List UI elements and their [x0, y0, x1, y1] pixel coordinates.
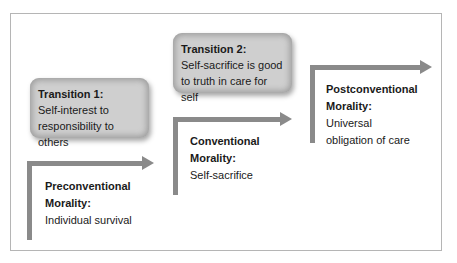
stage-desc: Individual survival [45, 212, 132, 229]
stage-title: Morality: [190, 150, 260, 167]
transition-box-1: Transition 1: Self-interest to responsib… [30, 78, 149, 138]
transition-box-2: Transition 2: Self-sacrifice is good to … [173, 33, 292, 93]
stage-title: Postconventional [326, 81, 418, 98]
stage-preconventional: Preconventional Morality: Individual sur… [45, 178, 132, 229]
transition-desc: Self-interest to [38, 102, 141, 118]
transition-title: Transition 2: [181, 41, 284, 57]
stage-title: Morality: [45, 195, 132, 212]
transition-desc: responsibility to others [38, 118, 141, 150]
stage-desc: obligation of care [326, 132, 418, 149]
stage-desc: Universal [326, 115, 418, 132]
stage-title: Preconventional [45, 178, 132, 195]
stage-title: Morality: [326, 98, 418, 115]
stage-postconventional: Postconventional Morality: Universal obl… [326, 81, 418, 149]
transition-title: Transition 1: [38, 86, 141, 102]
stage-conventional: Conventional Morality: Self-sacrifice [190, 133, 260, 184]
stage-title: Conventional [190, 133, 260, 150]
stage-desc: Self-sacrifice [190, 167, 260, 184]
transition-desc: to truth in care for self [181, 73, 284, 105]
transition-desc: Self-sacrifice is good [181, 57, 284, 73]
